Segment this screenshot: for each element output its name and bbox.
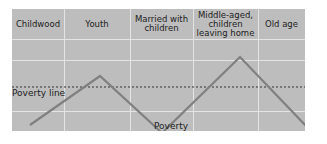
living-standard-line (30, 57, 305, 131)
trend-line-graphic (12, 9, 305, 131)
poverty-label: Poverty (154, 121, 188, 131)
poverty-line-label: Poverty line (12, 88, 65, 98)
life-cycle-poverty-diagram: Childwood Youth Married with children Mi… (12, 9, 305, 131)
